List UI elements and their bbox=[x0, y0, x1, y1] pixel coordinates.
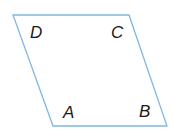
vertex-label-d: D bbox=[30, 23, 42, 42]
vertex-label-c: C bbox=[111, 23, 124, 42]
vertex-label-b: B bbox=[139, 102, 150, 121]
parallelogram-diagram: D C A B bbox=[0, 0, 174, 134]
vertex-label-a: A bbox=[62, 103, 74, 122]
